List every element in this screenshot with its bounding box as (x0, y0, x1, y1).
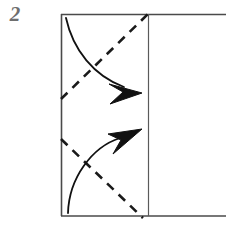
upper-fold-arrow-head (109, 84, 142, 104)
lower-fold-arrow (68, 129, 142, 213)
lower-dashed-fold-line (61, 139, 143, 218)
upper-dashed-fold-line (61, 13, 149, 99)
origami-step-figure: 2 (0, 0, 226, 233)
paper-outline-group (61, 14, 226, 216)
origami-diagram-canvas (0, 0, 226, 233)
upper-fold-arrow-shaft (66, 18, 124, 87)
lower-fold-arrow-shaft (68, 138, 120, 213)
